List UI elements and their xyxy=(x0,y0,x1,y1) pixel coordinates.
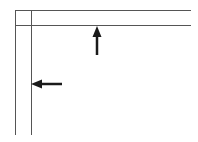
margin-diagram xyxy=(0,0,198,142)
left-arrow-icon xyxy=(31,80,62,89)
up-arrow-icon xyxy=(93,26,102,55)
